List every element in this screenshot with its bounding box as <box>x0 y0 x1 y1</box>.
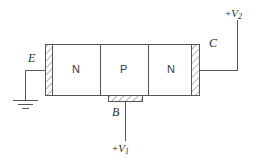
emitter-lead-wire <box>26 71 46 101</box>
base-supply-subscript: 1 <box>125 147 129 156</box>
collector-supply-subscript: 2 <box>238 12 242 21</box>
emitter-region-label: N <box>72 64 80 75</box>
base-supply-label: +V1 <box>112 143 129 156</box>
collector-lead-wire <box>200 21 238 71</box>
figure-canvas: N P N E C B +V1 +V2 <box>0 0 259 162</box>
collector-region-label: N <box>167 64 175 75</box>
emitter-terminal-label: E <box>28 52 35 64</box>
collector-supply-symbol: V <box>231 7 238 19</box>
ground-symbol <box>14 101 38 109</box>
emitter-electrode <box>46 45 53 96</box>
collector-supply-label: +V2 <box>225 8 242 21</box>
base-region-label: P <box>120 64 127 75</box>
collector-terminal-label: C <box>209 37 217 49</box>
transistor-cross-section-drawing <box>0 0 259 162</box>
base-terminal-label: B <box>112 106 119 118</box>
base-supply-symbol: V <box>118 142 125 154</box>
base-electrode <box>109 96 143 102</box>
collector-electrode <box>192 45 200 96</box>
